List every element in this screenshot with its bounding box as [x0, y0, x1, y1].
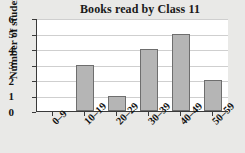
y-axis-tick-label: 5: [0, 29, 14, 40]
y-axis-tick-label: 4: [0, 45, 14, 56]
bar-series: [37, 19, 228, 111]
bar-chart: Books read by Class 11 Number of student…: [0, 0, 245, 153]
bar-30-39: [140, 49, 159, 111]
y-axis-tick-label: 1: [0, 91, 14, 102]
bar-10-19: [76, 65, 95, 112]
y-axis-tick-label: 2: [0, 76, 14, 87]
y-axis-tick-label: 3: [0, 60, 14, 71]
y-axis-tick-mark: [32, 112, 36, 113]
chart-title: Books read by Class 11: [40, 2, 240, 17]
y-axis-tick-label: 0: [0, 107, 14, 118]
y-axis-tick-label: 6: [0, 14, 14, 25]
bar-50-59: [204, 80, 223, 111]
plot-area: [36, 19, 228, 112]
bar-40-49: [172, 34, 191, 112]
